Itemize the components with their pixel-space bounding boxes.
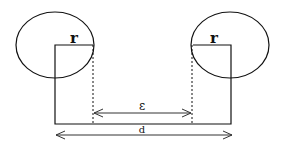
- right-rectangle: [193, 45, 231, 124]
- gap-dimension: ε: [94, 99, 191, 113]
- diagram-canvas: r r ε d: [0, 0, 284, 150]
- gap-label: ε: [139, 99, 145, 113]
- left-shape: r: [16, 12, 94, 124]
- distance-dimension: d: [56, 124, 232, 135]
- left-rectangle: [55, 45, 93, 124]
- right-radius-label: r: [210, 29, 219, 47]
- right-shape: r: [191, 12, 269, 124]
- distance-label: d: [139, 124, 146, 135]
- left-radius-label: r: [70, 29, 79, 47]
